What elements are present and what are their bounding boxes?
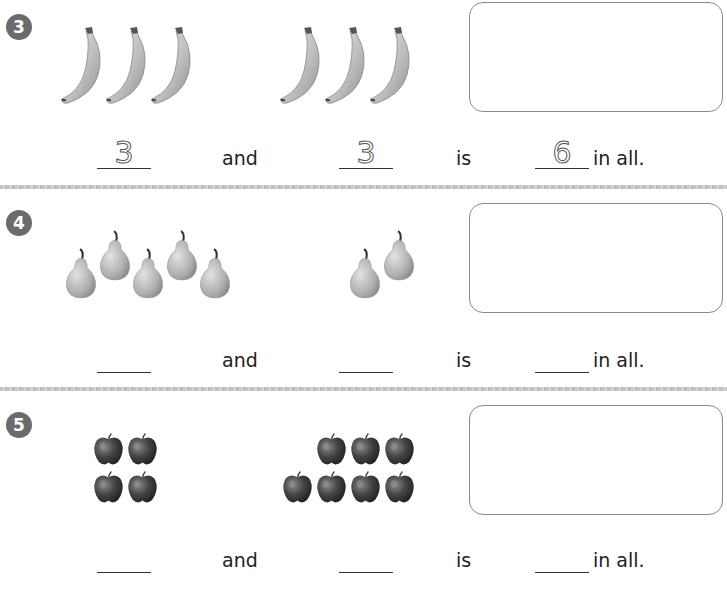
number-sentence: and is in all. (0, 336, 727, 376)
apple-group-a (93, 432, 159, 508)
problem-3: 3 3 and 3 is 6 in all. (0, 0, 727, 185)
addend-b-blank[interactable]: 3 (339, 138, 393, 169)
in-all-label: in all. (593, 147, 645, 169)
apple-icon (316, 432, 347, 466)
traced-answer: 3 (114, 135, 133, 170)
pear-group-b (348, 229, 420, 304)
total-blank[interactable] (535, 342, 589, 373)
traced-answer: 3 (356, 135, 375, 170)
banana-icon (367, 24, 413, 106)
pear-icon (348, 247, 382, 299)
problem-number-badge: 4 (6, 210, 32, 236)
number-sentence: and is in all. (0, 536, 727, 576)
is-label: is (456, 549, 471, 571)
banana-group-b (277, 22, 427, 108)
banana-icon (148, 24, 194, 106)
banana-group-a (58, 22, 208, 108)
and-label: and (222, 349, 258, 371)
pear-icon (165, 229, 199, 281)
apple-icon (93, 470, 124, 504)
total-blank[interactable] (535, 542, 589, 573)
traced-answer: 6 (552, 135, 571, 170)
problem-4: 4 and is in all. (0, 189, 727, 386)
apple-icon (316, 470, 347, 504)
apple-icon (350, 470, 381, 504)
pear-icon (198, 247, 232, 299)
apple-group-b (282, 432, 418, 508)
problem-number-badge: 5 (6, 412, 32, 438)
apple-icon (384, 470, 415, 504)
pear-icon (131, 247, 165, 299)
pear-icon (98, 229, 132, 281)
addend-b-blank[interactable] (339, 542, 393, 573)
apple-icon (127, 470, 158, 504)
total-blank[interactable]: 6 (535, 138, 589, 169)
and-label: and (222, 147, 258, 169)
number-sentence: 3 and 3 is 6 in all. (0, 132, 727, 172)
problem-number-badge: 3 (6, 14, 32, 40)
in-all-label: in all. (593, 549, 645, 571)
addend-b-blank[interactable] (339, 342, 393, 373)
problem-5: 5 and is in all. (0, 391, 727, 596)
apple-icon (93, 432, 124, 466)
is-label: is (456, 349, 471, 371)
apple-icon (282, 470, 313, 504)
banana-icon (322, 24, 368, 106)
addend-a-blank[interactable] (97, 542, 151, 573)
apple-icon (384, 432, 415, 466)
banana-icon (277, 24, 323, 106)
apple-icon (350, 432, 381, 466)
pear-group-a (64, 229, 234, 304)
is-label: is (456, 147, 471, 169)
addend-a-blank[interactable] (97, 342, 151, 373)
banana-icon (103, 24, 149, 106)
pear-icon (64, 247, 98, 299)
pear-icon (382, 229, 416, 281)
apple-icon (127, 432, 158, 466)
drawing-answer-box[interactable] (469, 203, 723, 313)
in-all-label: in all. (593, 349, 645, 371)
banana-icon (58, 24, 104, 106)
drawing-answer-box[interactable] (469, 405, 723, 515)
and-label: and (222, 549, 258, 571)
drawing-answer-box[interactable] (469, 2, 723, 112)
addend-a-blank[interactable]: 3 (97, 138, 151, 169)
